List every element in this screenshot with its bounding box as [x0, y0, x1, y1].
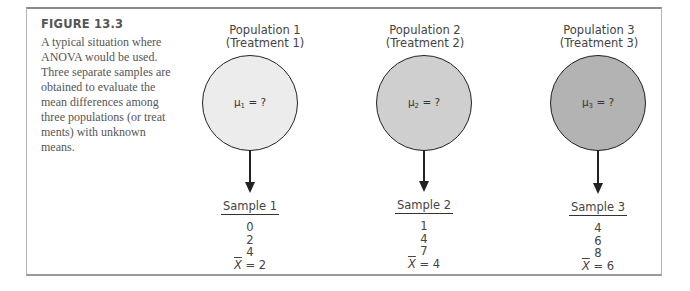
- arrow-down-icon: [245, 182, 255, 193]
- figure-caption-text: A typical situation where ANOVA would be…: [41, 35, 171, 155]
- arrow-2-line: [423, 150, 425, 183]
- sample-value: 1: [374, 220, 474, 233]
- arrow-3-line: [597, 150, 599, 185]
- sample-title: Sample 1: [221, 199, 279, 215]
- sample-1: Sample 1 0 2 4 X = 2: [200, 195, 300, 271]
- caption-line: Three separate samples are: [41, 65, 171, 80]
- population-subtitle: (Treatment 2): [360, 37, 490, 50]
- caption-line: A typical situation where: [41, 35, 171, 50]
- sample-3: Sample 3 4 6 8 X = 6: [548, 196, 648, 272]
- population-2-circle: μ2 = ?: [376, 55, 472, 151]
- sample-mean: X = 4: [374, 258, 474, 271]
- population-2-label: Population 2 (Treatment 2): [360, 24, 490, 50]
- population-3-label: Population 3 (Treatment 3): [534, 24, 664, 50]
- sample-title: Sample 3: [569, 200, 627, 216]
- population-2-mean: μ2 = ?: [408, 96, 440, 110]
- population-3-mean: μ3 = ?: [582, 96, 614, 110]
- population-1-circle: μ1 = ?: [202, 55, 298, 151]
- population-1-label: Population 1 (Treatment 1): [200, 24, 330, 50]
- sample-value: 4: [548, 222, 648, 235]
- arrow-down-icon: [593, 183, 603, 194]
- figure-label: FIGURE 13.3: [41, 17, 171, 31]
- sample-mean: X = 6: [548, 260, 648, 273]
- caption-line: obtained to evaluate the: [41, 80, 171, 95]
- caption-line: mean differences among: [41, 95, 171, 110]
- arrow-down-icon: [419, 181, 429, 192]
- caption-line: three populations (or treat: [41, 110, 171, 125]
- population-1-mean: μ1 = ?: [234, 96, 266, 110]
- sample-value: 0: [200, 221, 300, 234]
- caption-line: ments) with unknown: [41, 125, 171, 140]
- population-subtitle: (Treatment 3): [534, 37, 664, 50]
- arrow-1-line: [249, 150, 251, 184]
- sample-mean: X = 2: [200, 259, 300, 272]
- population-subtitle: (Treatment 1): [200, 37, 330, 50]
- figure-caption: FIGURE 13.3 A typical situation where AN…: [41, 17, 171, 155]
- sample-title: Sample 2: [395, 198, 453, 214]
- population-3-circle: μ3 = ?: [550, 55, 646, 151]
- caption-line: means.: [41, 140, 171, 155]
- caption-line: ANOVA would be used.: [41, 50, 171, 65]
- sample-2: Sample 2 1 4 7 X = 4: [374, 194, 474, 270]
